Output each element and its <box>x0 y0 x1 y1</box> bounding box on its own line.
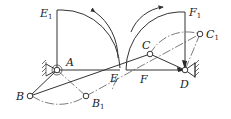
joint-c <box>147 51 153 57</box>
label-e: E <box>109 72 118 85</box>
label-f1: F1 <box>188 6 201 20</box>
joint-b1 <box>83 93 89 99</box>
joint-b <box>27 93 33 99</box>
label-c1: C1 <box>206 28 219 42</box>
linkage-figure: E1 A E B B1 C C1 F F1 D <box>0 0 231 119</box>
label-b1: B1 <box>91 97 105 111</box>
label-d: D <box>179 78 189 91</box>
slider-guide-f <box>126 12 185 70</box>
rotation-arrow-icon <box>131 7 163 32</box>
label-f: F <box>139 73 148 86</box>
label-a: A <box>65 56 74 69</box>
joint-c1 <box>197 31 203 37</box>
label-c: C <box>142 39 151 52</box>
joint-d <box>182 67 188 73</box>
rotation-arrow-icon <box>95 12 118 58</box>
mechanism-diagram: E1 A E B B1 C C1 F F1 D <box>0 0 231 119</box>
label-b: B <box>15 90 24 103</box>
label-e1: E1 <box>39 7 53 21</box>
joint-a <box>54 67 60 73</box>
